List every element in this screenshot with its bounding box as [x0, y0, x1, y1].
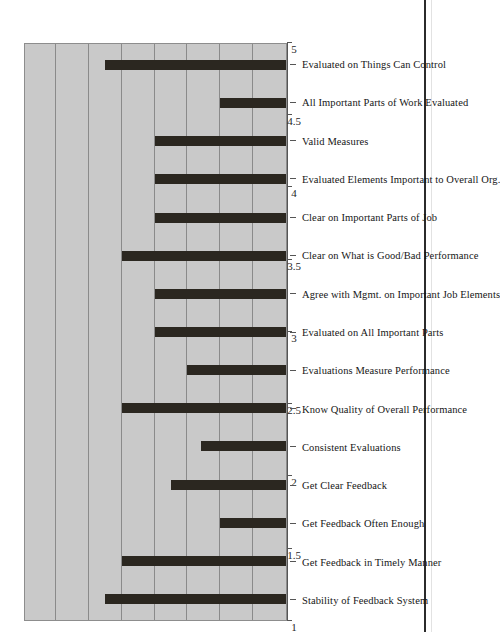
category-label-slot: Clear on What is Good/Bad Performance: [300, 236, 418, 274]
bar-slot: [25, 389, 286, 427]
bar: [105, 594, 286, 604]
rotated-figure-wrapper: 11.522.533.544.55 Stability of Feedback …: [18, 11, 418, 621]
category-tick-slot: [290, 275, 296, 313]
bar: [154, 289, 286, 299]
bar: [105, 60, 286, 70]
category-tick-slot: [290, 83, 296, 121]
bar: [220, 98, 286, 108]
category-tick: [290, 178, 296, 179]
category-label: Evaluated Elements Important to Overall …: [302, 173, 500, 184]
value-tick-label: 1: [291, 621, 297, 632]
category-tick: [290, 332, 296, 333]
category-tick-slot: [290, 466, 296, 504]
category-tick-slot: [290, 428, 296, 466]
category-axis: Stability of Feedback SystemGet Feedback…: [290, 43, 418, 621]
bar-series: [25, 44, 286, 620]
category-tick: [290, 64, 296, 65]
category-tick-slot: [290, 581, 296, 619]
category-label-slot: Know Quality of Overall Performance: [300, 389, 418, 427]
bar: [200, 441, 285, 451]
category-label-slot: Get Feedback in Timely Manner: [300, 542, 418, 580]
category-label: All Important Parts of Work Evaluated: [302, 97, 468, 108]
category-tick: [290, 140, 296, 141]
category-label: Evaluated on All Important Parts: [302, 327, 443, 338]
category-label-slot: Clear on Important Parts of Job: [300, 198, 418, 236]
bar-slot: [25, 46, 286, 84]
category-tick-slot: [290, 351, 296, 389]
category-tick-slot: [290, 313, 296, 351]
category-tick-slot: [290, 198, 296, 236]
bar: [121, 556, 285, 566]
category-tick: [290, 599, 296, 600]
category-tick-marks: [290, 43, 296, 621]
category-label: Evaluations Measure Performance: [302, 365, 450, 376]
plot-area: [24, 43, 287, 621]
bar: [154, 174, 286, 184]
category-label: Know Quality of Overall Performance: [302, 403, 467, 414]
category-label: Get Feedback Often Enough: [302, 518, 424, 529]
category-tick: [290, 293, 296, 294]
category-label: Valid Measures: [302, 135, 368, 146]
category-label: Consistent Evaluations: [302, 441, 401, 452]
category-label: Get Feedback in Timely Manner: [302, 556, 441, 567]
category-tick-slot: [290, 45, 296, 83]
category-label-slot: Evaluated on All Important Parts: [300, 313, 418, 351]
bar: [187, 365, 286, 375]
bar-slot: [25, 542, 286, 580]
bar-slot: [25, 580, 286, 618]
category-label-slot: Evaluated Elements Important to Overall …: [300, 160, 418, 198]
category-label-slot: Evaluations Measure Performance: [300, 351, 418, 389]
bar-slot: [25, 198, 286, 236]
bar: [154, 136, 286, 146]
category-tick-slot: [290, 504, 296, 542]
category-tick: [290, 561, 296, 562]
category-tick: [290, 255, 296, 256]
category-tick: [290, 408, 296, 409]
category-tick: [290, 485, 296, 486]
category-tick-slot: [290, 122, 296, 160]
bar-slot: [25, 84, 286, 122]
bar: [121, 403, 285, 413]
category-label: Get Clear Feedback: [302, 480, 387, 491]
category-label-slot: Consistent Evaluations: [300, 428, 418, 466]
page-scan-edge: [424, 0, 426, 632]
bar: [170, 480, 285, 490]
bar-slot: [25, 427, 286, 465]
bar-slot: [25, 351, 286, 389]
category-tick: [290, 217, 296, 218]
category-label-slot: All Important Parts of Work Evaluated: [300, 83, 418, 121]
bar: [154, 327, 286, 337]
category-tick-slot: [290, 542, 296, 580]
bar-slot: [25, 237, 286, 275]
bar-slot: [25, 122, 286, 160]
category-label: Clear on What is Good/Bad Performance: [302, 250, 478, 261]
category-tick: [290, 370, 296, 371]
category-label-slot: Valid Measures: [300, 122, 418, 160]
category-tick-slot: [290, 160, 296, 198]
bar: [220, 518, 286, 528]
category-label: Agree with Mgmt. on Important Job Elemen…: [302, 288, 500, 299]
bar: [121, 251, 285, 261]
category-tick-slot: [290, 389, 296, 427]
category-label-slot: Stability of Feedback System: [300, 581, 418, 619]
category-tick-labels: Stability of Feedback SystemGet Feedback…: [300, 43, 418, 621]
category-label: Clear on Important Parts of Job: [302, 212, 437, 223]
category-label: Stability of Feedback System: [302, 594, 428, 605]
bar-chart: 11.522.533.544.55 Stability of Feedback …: [18, 11, 418, 621]
value-axis-line: [287, 43, 288, 621]
bar-slot: [25, 275, 286, 313]
page-scan-edge-shadow: [431, 0, 432, 632]
category-tick: [290, 446, 296, 447]
category-label-slot: Evaluated on Things Can Control: [300, 45, 418, 83]
bar-slot: [25, 313, 286, 351]
category-tick-slot: [290, 236, 296, 274]
bar-slot: [25, 160, 286, 198]
category-label-slot: Get Feedback Often Enough: [300, 504, 418, 542]
category-tick: [290, 102, 296, 103]
category-label-slot: Get Clear Feedback: [300, 466, 418, 504]
category-label: Evaluated on Things Can Control: [302, 59, 446, 70]
bar-slot: [25, 504, 286, 542]
category-label-slot: Agree with Mgmt. on Important Job Elemen…: [300, 275, 418, 313]
bar: [154, 213, 286, 223]
bar-slot: [25, 465, 286, 503]
